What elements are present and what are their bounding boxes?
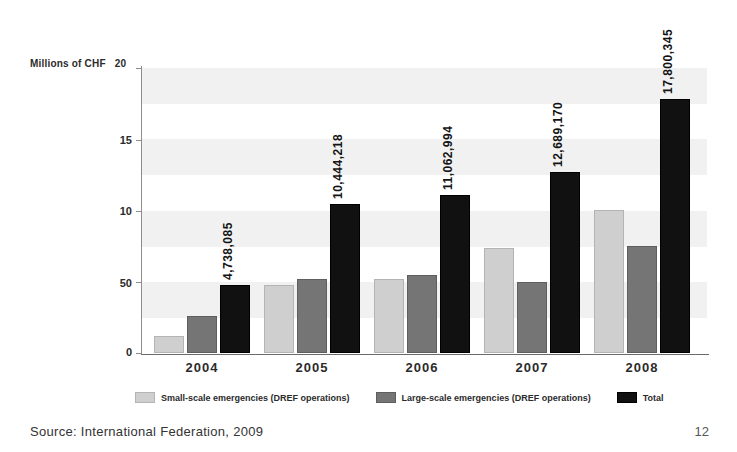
bar-total-2004[interactable]: 4,738,085 [220,285,250,353]
legend-swatch-icon-small-scale [135,392,155,403]
y-tick-mark-15 [136,140,142,141]
plot-area: 4,738,085 10,444,218 11,062,994 [142,68,707,353]
y-tick-mark-5 [136,282,142,283]
bar-group-2004: 4,738,085 [150,68,254,353]
bar-large-scale-2006[interactable] [407,275,437,353]
x-axis-line [141,354,709,355]
y-tick-label-10: 10 [92,205,132,217]
y-tick-label-5: 50 [92,277,132,289]
x-axis-label-2005: 2005 [260,360,364,375]
y-tick-mark-20 [136,68,142,69]
bar-value-label-2005: 10,444,218 [331,134,345,199]
y-tick-label-15: 15 [92,134,132,146]
bar-group-2007: 12,689,170 [480,68,584,353]
x-axis-label-2006: 2006 [370,360,474,375]
bar-small-scale-2004[interactable] [154,336,184,353]
bar-value-label-2006: 11,062,994 [441,126,455,190]
bar-large-scale-2007[interactable] [517,282,547,353]
bar-group-2006: 11,062,994 [370,68,474,353]
x-axis-label-2008: 2008 [590,360,694,375]
y-axis-title: Millions of CHF 20 [30,58,126,69]
bar-group-2008: 17,800,345 [590,68,694,353]
bar-value-label-2004: 4,738,085 [221,222,235,280]
bar-value-label-2007: 12,689,170 [551,102,565,167]
legend-label-small-scale: Small-scale emergencies (DREF operations… [161,393,350,403]
bar-value-label-2008: 17,800,345 [661,29,675,94]
bar-large-scale-2008[interactable] [627,246,657,353]
y-axis-title-text: Millions of CHF [30,58,106,69]
legend-item-total[interactable]: Total [617,392,664,403]
bar-large-scale-2005[interactable] [297,279,327,353]
x-axis-label-2007: 2007 [480,360,584,375]
source-note: Source: International Federation, 2009 [30,424,263,439]
bar-small-scale-2007[interactable] [484,248,514,353]
bar-total-2005[interactable]: 10,444,218 [330,204,360,353]
bar-total-2006[interactable]: 11,062,994 [440,195,470,353]
bar-group-2005: 10,444,218 [260,68,364,353]
y-tick-mark-10 [136,211,142,212]
bar-total-2008[interactable]: 17,800,345 [660,99,690,353]
chart-legend: Small-scale emergencies (DREF operations… [135,392,663,403]
x-axis-label-2004: 2004 [150,360,254,375]
y-tick-mark-0 [136,353,142,354]
y-tick-label-0: 0 [92,346,132,358]
slide-chart-page: Millions of CHF 20 4,738,085 [0,0,737,452]
bar-small-scale-2006[interactable] [374,279,404,353]
bar-small-scale-2005[interactable] [264,285,294,353]
bar-large-scale-2004[interactable] [187,316,217,353]
bar-small-scale-2008[interactable] [594,210,624,353]
legend-label-large-scale: Large-scale emergencies (DREF operations… [402,393,591,403]
legend-swatch-icon-large-scale [376,392,396,403]
legend-item-large-scale[interactable]: Large-scale emergencies (DREF operations… [376,392,591,403]
bar-total-2007[interactable]: 12,689,170 [550,172,580,353]
page-number: 12 [695,424,709,439]
legend-swatch-icon-total [617,392,637,403]
legend-label-total: Total [643,393,664,403]
y-tick-label-20: 20 [115,58,127,69]
legend-item-small-scale[interactable]: Small-scale emergencies (DREF operations… [135,392,350,403]
